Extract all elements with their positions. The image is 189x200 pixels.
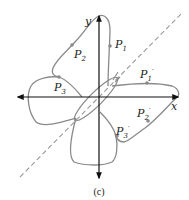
label-p1-prime: P1′ xyxy=(139,68,154,83)
label-p1: P1 xyxy=(114,38,127,53)
point-p3 xyxy=(57,75,61,79)
butterfly-body xyxy=(70,73,122,125)
point-p1 xyxy=(108,44,112,48)
label-p3-prime: P3′ xyxy=(115,125,130,140)
butterfly-reflection-diagram: y x P1 P2 P3 P1′ P2′ P3′ (c) xyxy=(0,0,189,200)
symmetry-line-dashed xyxy=(20,13,182,177)
label-p3: P3 xyxy=(53,81,66,96)
label-p2-prime: P2′ xyxy=(136,107,151,122)
point-p2 xyxy=(70,43,74,47)
x-axis-label: x xyxy=(171,100,178,113)
label-p2: P2 xyxy=(73,48,86,63)
left-wing-curve xyxy=(28,77,76,125)
figure-caption: (c) xyxy=(93,186,104,198)
y-axis-label: y xyxy=(84,15,92,28)
lower-wing-curve xyxy=(70,112,117,165)
